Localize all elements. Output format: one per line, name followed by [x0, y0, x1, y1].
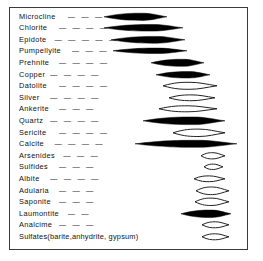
mineral-row: Arsenides— — —: [10, 150, 247, 162]
lens-open: [204, 161, 223, 173]
mineral-label: Silver: [19, 92, 40, 104]
mineral-label: Microcline: [19, 11, 56, 23]
lens-open: [173, 127, 225, 139]
lens-filled: [181, 208, 231, 220]
mineral-label: Calcite: [19, 138, 44, 150]
mineral-label: Quartz: [19, 115, 43, 127]
mineral-label: Prehnite: [19, 57, 49, 69]
mineral-row: Epidote— — — — —: [10, 34, 247, 46]
leader-dashes: — — — —: [50, 115, 100, 127]
lens-filled: [111, 34, 185, 46]
mineral-label: Sulfates(barite,anhydrite, gypsum): [19, 231, 138, 243]
lens-filled: [113, 45, 187, 57]
leader-dashes: — — — — —: [54, 34, 118, 46]
mineral-label: Copper: [19, 69, 45, 81]
leader-dashes: — — — —: [50, 69, 100, 81]
mineral-label: Adularia: [19, 185, 49, 197]
mineral-row-list: Microcline— — — —Chlorite— — — — —Epidot…: [10, 8, 247, 249]
mineral-row: Pumpellyite— — —: [10, 45, 247, 57]
mineral-label: Ankerite: [19, 103, 49, 115]
leader-dashes: — — — —: [59, 127, 109, 139]
leader-dashes: — — — —: [50, 92, 100, 104]
mineral-row: Prehnite— — — —: [10, 57, 247, 69]
leader-dashes: — — —: [59, 161, 96, 173]
lens-open: [202, 219, 229, 231]
mineral-row: Saponite— — —: [10, 196, 247, 208]
leader-dashes: — — —: [59, 196, 96, 208]
lens-filled: [156, 69, 210, 81]
mineral-row: Copper— — — —: [10, 69, 247, 81]
leader-dashes: — — — —: [54, 138, 104, 150]
mineral-label: Chlorite: [19, 22, 47, 34]
mineral-label: Albite: [19, 173, 40, 185]
lens-open: [201, 150, 225, 162]
mineral-row: Sericite— — — —: [10, 127, 247, 139]
leader-dashes: — — —: [59, 219, 96, 231]
leader-dashes: — — — —: [50, 173, 100, 185]
lens-open: [195, 196, 229, 208]
leader-dashes: — — — —: [59, 57, 109, 69]
mineral-row: Chlorite— — — — —: [10, 22, 247, 34]
leader-dashes: — — —: [59, 103, 96, 115]
mineral-row: Sulfates(barite,anhydrite, gypsum): [10, 231, 247, 243]
figure-frame: Microcline— — — —Chlorite— — — — —Epidot…: [9, 7, 248, 250]
mineral-label: Laumontite: [19, 208, 59, 220]
mineral-label: Analcime: [19, 219, 52, 231]
mineral-label: Epidote: [19, 34, 47, 46]
mineral-row: Quartz— — — —: [10, 115, 247, 127]
lens-open: [202, 231, 229, 243]
mineral-row: Datolite— — — —: [10, 80, 247, 92]
mineral-label: Sericite: [19, 127, 46, 139]
mineral-row: Albite— — — —: [10, 173, 247, 185]
leader-dashes: — — —: [63, 150, 100, 162]
lens-filled: [143, 115, 225, 127]
lens-filled: [151, 57, 204, 69]
lens-open: [194, 173, 225, 185]
mineral-row: Sulfides— — —: [10, 161, 247, 173]
lens-open: [196, 185, 229, 197]
mineral-row: Calcite— — — —: [10, 138, 247, 150]
mineral-label: Arsenides: [19, 150, 55, 162]
mineral-label: Sulfides: [19, 161, 48, 173]
mineral-row: Adularia— — —: [10, 185, 247, 197]
lens-filled: [104, 11, 167, 23]
lens-open: [163, 80, 217, 92]
mineral-label: Pumpellyite: [19, 45, 61, 57]
lens-open: [169, 92, 215, 104]
leader-dashes: — — —: [59, 185, 96, 197]
mineral-row: Silver— — — —: [10, 92, 247, 104]
leader-dashes: — — — —: [59, 80, 109, 92]
lens-open: [159, 103, 217, 115]
leader-dashes: — — —: [72, 45, 109, 57]
mineral-label: Datolite: [19, 80, 47, 92]
mineral-row: Laumontite— —: [10, 208, 247, 220]
mineral-row: Analcime— — —: [10, 219, 247, 231]
lens-filled: [104, 22, 183, 34]
figure-page: Microcline— — — —Chlorite— — — — —Epidot…: [0, 0, 263, 261]
mineral-row: Ankerite— — —: [10, 103, 247, 115]
mineral-label: Saponite: [19, 196, 51, 208]
mineral-row: Microcline— — — —: [10, 11, 247, 23]
leader-dashes: — —: [68, 208, 91, 220]
lens-filled: [135, 138, 237, 150]
